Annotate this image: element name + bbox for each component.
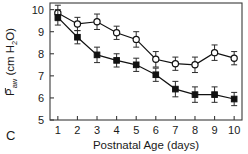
x-tick-label: 9 xyxy=(212,124,218,136)
y-tick-label: 8 xyxy=(38,48,44,60)
y-axis-title: Paw (cm H2O) xyxy=(4,28,19,96)
x-tick-label: 6 xyxy=(153,124,159,136)
data-point-filled-square xyxy=(231,96,237,102)
data-point-open-circle xyxy=(114,30,120,36)
data-point-open-circle xyxy=(231,55,237,61)
x-tick-label: 10 xyxy=(228,124,240,136)
data-point-filled-square xyxy=(133,62,139,68)
svg-text:Paw (cm H2O): Paw (cm H2O) xyxy=(4,28,19,96)
y-tick-label: 10 xyxy=(32,4,44,16)
x-tick-label: 7 xyxy=(172,124,178,136)
series-line xyxy=(58,17,234,99)
data-point-open-circle xyxy=(133,36,139,42)
x-axis-title: Postnatal Age (days) xyxy=(93,139,199,151)
data-point-filled-square xyxy=(192,92,198,98)
panel-label: C xyxy=(6,128,15,143)
y-tick-label: 9 xyxy=(38,26,44,38)
x-tick-label: 1 xyxy=(55,124,61,136)
data-point-filled-square xyxy=(212,92,218,98)
x-tick-label: 2 xyxy=(74,124,80,136)
series-open-circle-group xyxy=(55,5,238,72)
x-axis-ticks: 12345678910 xyxy=(55,116,241,136)
x-tick-label: 5 xyxy=(133,124,139,136)
data-point-open-circle xyxy=(94,19,100,25)
y-tick-label: 5 xyxy=(38,114,44,126)
y-axis-ticks: 5678910 xyxy=(32,4,54,126)
data-point-filled-square xyxy=(153,72,159,78)
data-point-filled-square xyxy=(94,52,100,58)
x-tick-label: 4 xyxy=(114,124,120,136)
x-tick-label: 3 xyxy=(94,124,100,136)
y-tick-label: 6 xyxy=(38,92,44,104)
data-point-filled-square xyxy=(75,34,81,40)
data-point-open-circle xyxy=(153,56,159,62)
data-point-open-circle xyxy=(74,21,80,27)
figure-panel-c: 5678910 12345678910 Postnatal Age (days)… xyxy=(0,0,248,154)
y-tick-label: 7 xyxy=(38,70,44,82)
data-point-open-circle xyxy=(192,62,198,68)
series-line xyxy=(58,13,234,65)
data-series-layer xyxy=(55,5,238,105)
data-point-open-circle xyxy=(172,61,178,67)
data-point-filled-square xyxy=(114,58,120,64)
x-tick-label: 8 xyxy=(192,124,198,136)
data-point-open-circle xyxy=(211,50,217,56)
data-point-filled-square xyxy=(173,86,179,92)
chart-svg: 5678910 12345678910 Postnatal Age (days)… xyxy=(0,0,248,154)
data-point-filled-square xyxy=(55,15,61,21)
